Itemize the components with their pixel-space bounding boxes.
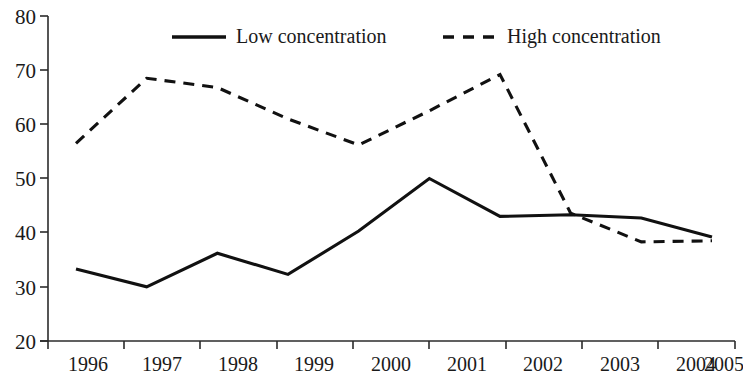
x-tick-label-1998: 1998: [218, 353, 258, 375]
x-tick-label-2001: 2001: [447, 353, 487, 375]
y-tick-label-60: 60: [15, 113, 36, 137]
chart-legend: Low concentration High concentration: [172, 25, 661, 48]
line-chart: 80 70 60 50 40 30 20 1996 1997 1998 19: [0, 0, 743, 378]
series-line-low-concentration: [76, 179, 712, 287]
x-tick-label-1999: 1999: [294, 353, 334, 375]
x-tick-label-2003: 2003: [600, 353, 640, 375]
chart-canvas: 80 70 60 50 40 30 20 1996 1997 1998 19: [0, 0, 743, 378]
y-tick-label-70: 70: [15, 59, 36, 83]
y-tick-label-80: 80: [15, 5, 36, 29]
y-tick-label-50: 50: [15, 167, 36, 191]
legend-label-low-concentration: Low concentration: [236, 25, 387, 47]
x-tick-label-2002: 2002: [523, 353, 563, 375]
legend-label-high-concentration: High concentration: [507, 25, 661, 48]
x-tick-label-1997: 1997: [142, 353, 182, 375]
y-axis-tick-labels: 80 70 60 50 40 30 20: [15, 5, 36, 354]
y-tick-label-40: 40: [15, 221, 36, 245]
x-axis-tick-labels: 1996 1997 1998 1999 2000 2001 2002 2003 …: [68, 353, 743, 375]
x-tick-label-2000: 2000: [371, 353, 411, 375]
y-tick-label-20: 20: [15, 330, 36, 354]
y-axis-ticks: [40, 16, 48, 341]
y-tick-label-30: 30: [15, 276, 36, 300]
x-tick-label-1996: 1996: [68, 353, 108, 375]
x-tick-label-2005: 2005: [704, 353, 743, 375]
x-axis-ticks: [48, 341, 735, 349]
